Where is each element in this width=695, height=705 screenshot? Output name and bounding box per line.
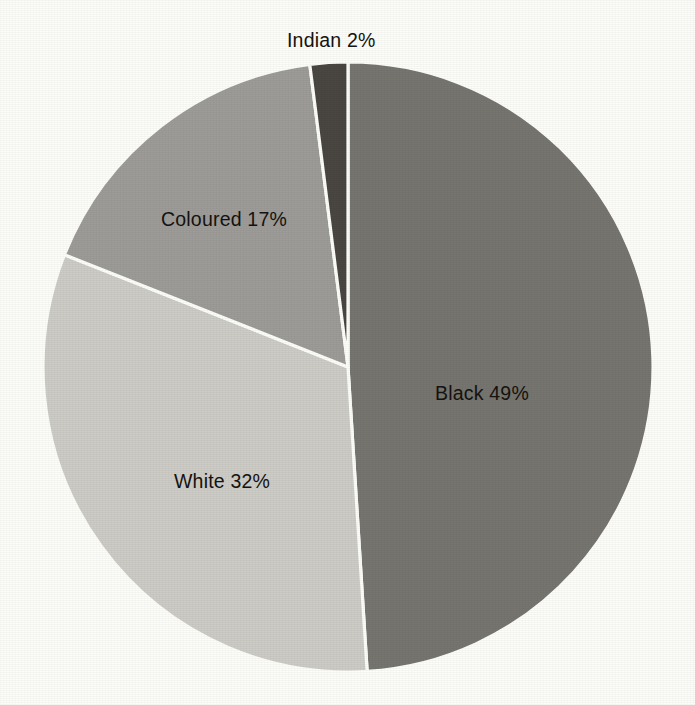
pie-slices-group [43,62,653,672]
pie-slice-black[interactable] [348,62,653,671]
pie-chart-svg [0,0,695,705]
pie-label-black: Black 49% [435,384,529,404]
pie-chart: Indian 2% Coloured 17% White 32% Black 4… [0,0,695,705]
pie-label-coloured: Coloured 17% [161,210,287,230]
pie-label-white: White 32% [174,472,270,492]
pie-label-indian: Indian 2% [287,31,376,51]
